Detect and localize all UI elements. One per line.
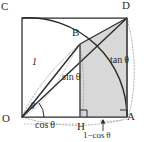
point-label-c: C (1, 1, 8, 12)
label-angle-theta: θ (30, 101, 35, 111)
angle-theta-arc (39, 103, 44, 117)
point-label-o: O (2, 113, 10, 124)
point-label-b: B (72, 27, 79, 38)
label-cos-theta: cos θ (35, 120, 55, 130)
arc-construction-ad-icon (127, 18, 134, 118)
point-label-d: D (122, 0, 130, 11)
label-sin-theta: sin θ (62, 72, 80, 82)
label-one-minus-cos-theta: 1−cos θ (83, 131, 111, 140)
shaded-region-bhad (80, 18, 127, 117)
point-label-a: A (127, 111, 135, 122)
label-radius-one: 1 (32, 57, 37, 67)
label-tan-theta: tan θ (110, 55, 129, 65)
geometry-figure: C D B O A H 1 θ cos θ sin θ tan θ 1−cos … (0, 0, 144, 142)
